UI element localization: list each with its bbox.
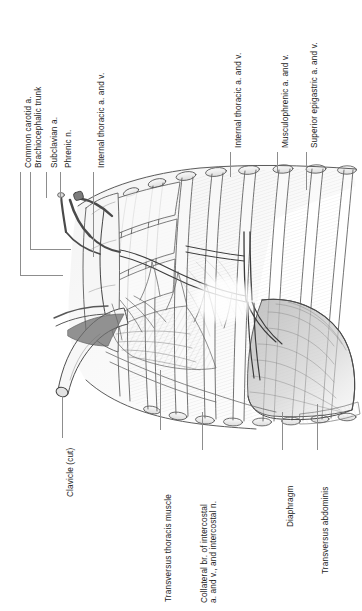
label-phrenic-nerve: Phrenic n. (64, 130, 74, 168)
leader-internal-thoracic-left (93, 172, 94, 257)
label-transversus-abdominis: Transversus abdominis (321, 487, 331, 574)
label-internal-thoracic-left: Internal thoracic a. and v. (97, 73, 107, 168)
label-common-carotid: Common carotid a. (24, 96, 34, 168)
leader-transversus-thoracis (160, 370, 161, 430)
highlight-wash (190, 274, 258, 326)
label-subclavian: Subclavian a. (50, 117, 60, 168)
label-musculophrenic: Musculophrenic a. and v. (281, 54, 291, 148)
label-collateral-branch-line2: a. and v., and intercostal n. (209, 501, 218, 603)
label-clavicle-cut: Clavicle (cut) (66, 448, 76, 497)
leader-common-carotid (20, 172, 21, 276)
diaphragm (248, 299, 355, 419)
leader-internal-thoracic-right (230, 152, 231, 177)
label-transversus-thoracis: Transversus thoracis muscle (164, 494, 174, 602)
leader-brachiocephalic-trunk-foot (30, 249, 71, 250)
leader-diaphragm (282, 412, 283, 450)
label-collateral-branch-line1: Collateral br. of intercostal (200, 504, 209, 603)
leader-phrenic-nerve (60, 172, 61, 200)
leader-brachiocephalic-trunk (30, 172, 31, 250)
label-diaphragm: Diaphragm (286, 486, 296, 527)
carotid-cut-end (58, 193, 65, 198)
leader-musculophrenic (277, 152, 278, 172)
label-internal-thoracic-right: Internal thoracic a. and v. (234, 53, 244, 148)
leader-clavicle-cut (62, 396, 63, 438)
anatomy-plate: Common carotid a. Brachiocephalic trunk … (0, 0, 362, 611)
leader-transversus-abdominis (317, 404, 318, 450)
leader-common-carotid-foot (20, 275, 63, 276)
thoracic-wall-illustration (0, 0, 362, 611)
leader-collateral-branch (202, 412, 203, 450)
label-brachiocephalic-trunk: Brachiocephalic trunk (34, 87, 44, 168)
figure-body (54, 164, 360, 429)
label-superior-epigastric: Superior epigastric a. and v. (310, 42, 320, 148)
leader-subclavian (46, 172, 47, 198)
leader-superior-epigastric (306, 152, 307, 190)
label-collateral-branch: Collateral br. of intercostal a. and v.,… (200, 501, 219, 603)
